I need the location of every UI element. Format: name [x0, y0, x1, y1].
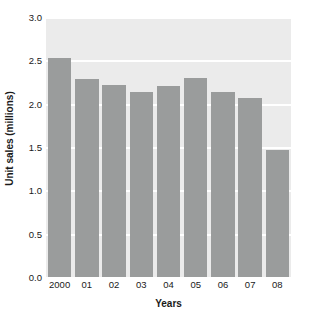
y-axis-title-label: Unit sales (millions)	[4, 91, 15, 185]
bar[interactable]	[102, 85, 125, 277]
bar[interactable]	[211, 92, 234, 277]
bar-slot	[100, 17, 127, 277]
y-axis-tick-label: 0.0	[29, 272, 42, 283]
y-axis-tick-labels: 0.00.51.01.52.02.53.0	[18, 0, 44, 321]
bar-series	[46, 17, 291, 277]
y-axis-title: Unit sales (millions)	[0, 0, 18, 277]
y-axis-tick-label: 1.5	[29, 142, 42, 153]
y-axis-tick-label: 3.0	[29, 12, 42, 23]
bar-slot	[264, 17, 291, 277]
bar-slot	[73, 17, 100, 277]
x-axis-tick-label: 04	[155, 279, 182, 295]
bar[interactable]	[75, 79, 98, 277]
x-axis-tick-labels: 20000102030405060708	[46, 279, 291, 295]
bar-slot	[155, 17, 182, 277]
x-axis-tick-label: 03	[128, 279, 155, 295]
bar[interactable]	[266, 150, 289, 277]
x-axis-tick-label: 05	[182, 279, 209, 295]
x-axis-tick-label: 06	[209, 279, 236, 295]
x-axis-tick-label: 07	[237, 279, 264, 295]
bar-slot	[46, 17, 73, 277]
bar[interactable]	[238, 98, 261, 277]
bar[interactable]	[130, 92, 153, 277]
x-axis-tick-label: 2000	[46, 279, 73, 295]
bar-slot	[237, 17, 264, 277]
bar[interactable]	[157, 86, 180, 277]
y-axis-tick-label: 0.5	[29, 228, 42, 239]
y-axis-tick-label: 1.0	[29, 185, 42, 196]
y-axis-tick-label: 2.5	[29, 55, 42, 66]
x-axis-tick-label: 01	[73, 279, 100, 295]
bar-chart: Unit sales (millions) 0.00.51.01.52.02.5…	[0, 0, 311, 321]
x-axis-tick-label: 02	[100, 279, 127, 295]
bar-slot	[128, 17, 155, 277]
bar-slot	[209, 17, 236, 277]
x-axis-title: Years	[46, 298, 291, 309]
y-axis-tick-label: 2.0	[29, 98, 42, 109]
bar[interactable]	[48, 58, 71, 277]
x-axis-tick-label: 08	[264, 279, 291, 295]
plot-area	[46, 17, 291, 277]
bar[interactable]	[184, 78, 207, 277]
bar-slot	[182, 17, 209, 277]
